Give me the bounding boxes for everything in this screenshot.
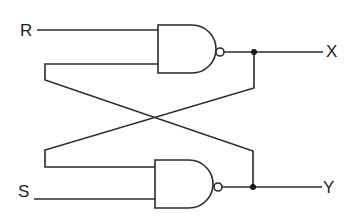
- output-label-x: X: [326, 43, 337, 60]
- wire-x-feedback: [45, 52, 254, 167]
- latch-diagram: [0, 0, 356, 221]
- wire-y-feedback: [45, 64, 253, 187]
- top-inversion-bubble: [216, 48, 224, 56]
- output-label-y: Y: [323, 179, 334, 196]
- bottom-nand-gate: [155, 160, 213, 208]
- junction-dot-y: [250, 184, 256, 190]
- top-nand-gate: [158, 25, 216, 73]
- input-label-r: R: [20, 22, 32, 39]
- input-label-s: S: [18, 183, 29, 200]
- bottom-inversion-bubble: [214, 183, 222, 191]
- junction-dot-x: [251, 49, 257, 55]
